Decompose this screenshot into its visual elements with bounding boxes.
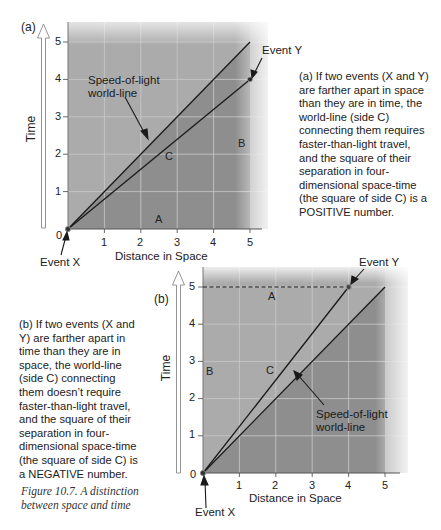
desc-b-line: (side C) connecting [19,372,159,386]
desc-b-line: time than they are in [19,345,159,359]
panel-b-xtick-5: 5 [382,479,388,491]
panel-b-ytick-4: 4 [189,317,195,329]
desc-b-line: space, the world-line [19,359,159,373]
panel-a: (a) Time 5 4 3 2 1 0 1 2 3 4 5 Distance … [0,0,441,265]
panel-a-ytick-3: 3 [55,110,61,122]
desc-a-line: world-line (side C) [299,111,441,125]
desc-b-line: them doesn’t require [19,386,159,400]
panel-a-xtick-4: 4 [210,236,216,248]
panel-a-xtick-5: 5 [247,236,253,248]
desc-a-line: than they are in time, the [299,97,441,111]
panel-b-region-a: A [268,290,275,302]
panel-b-xlabel: Distance in Space [249,492,342,504]
panel-b-light-label-1: Speed-of-light [316,408,388,420]
panel-b-ytick-3: 3 [189,354,195,366]
panel-b-event-y-label: Event Y [359,256,399,268]
desc-b-line: a NEGATIVE number. [19,468,159,482]
panel-b-region-b: B [206,365,213,377]
panel-a-xlabel: Distance in Space [115,250,208,262]
panel-b-xtick-0: 0 [190,468,196,480]
panel-a-xtick-2: 2 [137,236,143,248]
desc-a-line: (a) If two events (X and Y) [299,70,441,84]
panel-a-xtick-3: 3 [174,236,180,248]
caption-line-2: between space and time [21,499,161,513]
panel-b-xtick-4: 4 [345,479,351,491]
caption-line-1: Figure 10.7. A distinction [21,485,161,499]
time-axis-arrow-icon-a [38,24,50,228]
desc-b-line: (the square of side C) is [19,454,159,468]
desc-a-line: separation in four- [299,165,441,179]
desc-b-line: Y) are farther apart in [19,332,159,346]
panel-b-label: (b) [154,292,169,306]
panel-b-xtick-1: 1 [236,479,242,491]
panel-a-region-c: C [165,150,173,162]
panel-b-region-c: C [266,364,274,376]
desc-a-line: connecting them requires [299,124,441,138]
panel-a-ytick-4: 4 [55,72,61,84]
desc-b-line: and the square of their [19,413,159,427]
figure-caption: Figure 10.7. A distinction between space… [21,485,161,512]
panel-a-ytick-5: 5 [55,35,61,47]
desc-b-line: faster-than-light travel, [19,400,159,414]
panel-a-ylabel: Time [24,109,38,149]
panel-b-xtick-3: 3 [309,479,315,491]
panel-b-description: (b) If two events (X and Y) are farther … [19,318,159,481]
panel-a-event-y-label: Event Y [262,44,302,56]
desc-a-line: POSITIVE number. [299,206,441,220]
panel-a-light-label-2: world-line [88,87,137,99]
desc-b-line: (b) If two events (X and [19,318,159,332]
panel-a-label: (a) [21,20,36,34]
panel-b-ytick-1: 1 [189,428,195,440]
panel-b-light-label-2: world-line [316,421,365,433]
panel-b-ytick-2: 2 [189,391,195,403]
desc-a-line: dimensional space-time [299,179,441,193]
desc-a-line: and the square of their [299,152,441,166]
panel-a-xtick-0: 0 [56,229,62,241]
panel-a-description: (a) If two events (X and Y) are farther … [299,70,441,220]
panel-b-ytick-5: 5 [189,280,195,292]
desc-a-line: (the square of side C) is a [299,192,441,206]
desc-b-line: separation in four- [19,427,159,441]
desc-a-line: are farther apart in space [299,84,441,98]
panel-b-xtick-2: 2 [272,479,278,491]
panel-a-ytick-1: 1 [55,185,61,197]
panel-a-ytick-2: 2 [55,147,61,159]
desc-b-line: dimensional space-time [19,440,159,454]
panel-b-ylabel: Time [159,348,173,388]
panel-a-region-b: B [238,137,245,149]
panel-a-region-a: A [155,213,162,225]
panel-b-event-x-label: Event X [195,506,235,518]
panel-b: (b) Time 5 4 3 2 1 0 1 2 3 4 5 Distance … [0,265,441,530]
panel-a-xtick-1: 1 [101,236,107,248]
desc-a-line: faster-than-light travel, [299,138,441,152]
time-axis-arrow-icon-b [173,271,185,473]
panel-a-light-label-1: Speed-of-light [88,74,160,86]
